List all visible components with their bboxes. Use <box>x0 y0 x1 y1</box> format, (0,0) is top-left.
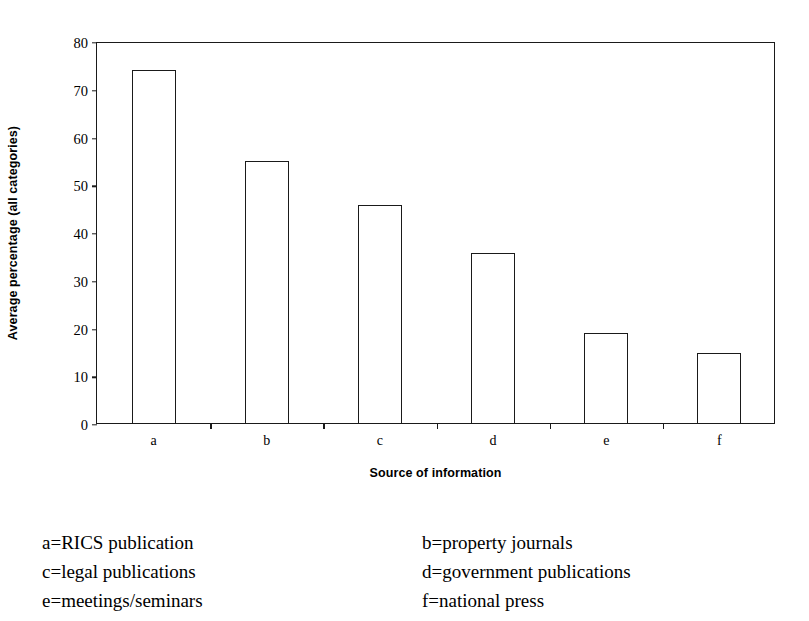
legend-row: a=RICS publicationb=property journals <box>42 528 782 557</box>
y-tick-label: 70 <box>74 82 89 99</box>
y-tick-mark <box>92 138 97 139</box>
legend-row: e=meetings/seminarsf=national press <box>42 586 782 615</box>
x-axis-title: Source of information <box>96 466 775 480</box>
bar-d <box>471 253 515 423</box>
y-tick-label: 30 <box>74 273 89 290</box>
x-tick-label-d: d <box>490 433 497 449</box>
y-tick-mark <box>92 233 97 234</box>
bar-f <box>697 353 741 423</box>
y-axis-title: Average percentage (all categories) <box>0 42 26 424</box>
x-tick-label-f: f <box>717 433 722 449</box>
y-tick-label: 80 <box>74 35 89 52</box>
x-tick-mark <box>323 423 324 429</box>
x-tick-label-a: a <box>150 433 156 449</box>
legend-entry-left: c=legal publications <box>42 557 422 586</box>
y-tick-label: 50 <box>74 178 89 195</box>
legend-entry-left: e=meetings/seminars <box>42 586 422 615</box>
y-tick-label: 0 <box>81 417 88 434</box>
x-tick-mark <box>437 423 438 429</box>
y-tick-mark <box>92 90 97 91</box>
x-tick-mark <box>663 423 664 429</box>
y-tick-label: 40 <box>74 226 89 243</box>
legend-entry-right: b=property journals <box>422 528 782 557</box>
plot-area: 80706050403020100 abcdef <box>96 42 775 424</box>
bar-e <box>584 333 628 423</box>
bar-chart-figure: Average percentage (all categories) 8070… <box>0 0 809 500</box>
y-tick-mark <box>92 42 97 43</box>
bar-b <box>245 161 289 423</box>
y-tick-mark <box>92 186 97 187</box>
x-tick-label-b: b <box>263 433 270 449</box>
legend-entry-left: a=RICS publication <box>42 528 422 557</box>
x-tick-label-e: e <box>603 433 609 449</box>
legend-entry-right: f=national press <box>422 586 782 615</box>
legend-row: c=legal publicationsd=government publica… <box>42 557 782 586</box>
x-tick-label-c: c <box>377 433 383 449</box>
y-tick-mark <box>92 329 97 330</box>
y-tick-label: 60 <box>74 130 89 147</box>
legend-entry-right: d=government publications <box>422 557 782 586</box>
bar-a <box>132 70 176 423</box>
bar-c <box>358 205 402 423</box>
y-tick-label: 10 <box>74 369 89 386</box>
y-tick-label: 20 <box>74 321 89 338</box>
y-tick-mark <box>92 424 97 425</box>
y-tick-mark <box>92 377 97 378</box>
y-tick-mark <box>92 281 97 282</box>
x-tick-mark <box>210 423 211 429</box>
legend: a=RICS publicationb=property journalsc=l… <box>42 528 782 615</box>
x-tick-mark <box>550 423 551 429</box>
